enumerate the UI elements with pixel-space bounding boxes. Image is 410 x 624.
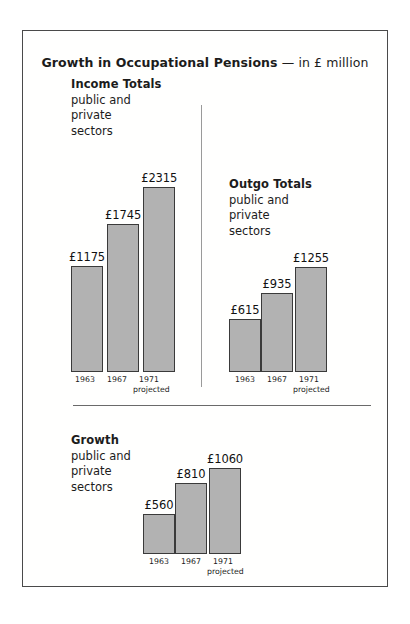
chart-income-totals: £1175 £1745 £2315 (69, 149, 169, 372)
panel-income-totals: Income Totals public and private sectors… (23, 31, 201, 405)
panel-income-totals-subtitle-line-1: public and (71, 93, 162, 109)
chart-growth-x-axis: 1963 1967 1971 projected (143, 557, 239, 577)
panel-outgo-totals-subtitle-line-3: sectors (229, 224, 312, 240)
axis-tick: 1967 (101, 375, 133, 395)
bar-value-label: £810 (177, 467, 206, 481)
bar-rect[interactable] (175, 483, 207, 554)
axis-tick-note: projected (133, 385, 165, 395)
axis-tick: 1971 projected (293, 375, 325, 395)
axis-tick: 1963 (143, 557, 175, 577)
axis-tick: 1963 (229, 375, 261, 395)
panel-growth: Growth public and private sectors £560 £… (23, 405, 389, 588)
chart-income-totals-x-axis: 1963 1967 1971 projected (69, 375, 165, 395)
bar-value-label: £2315 (141, 171, 177, 185)
panel-growth-heading: Growth public and private sectors (71, 433, 131, 495)
bar-value-label: £1745 (105, 208, 141, 222)
bar-value-label: £1255 (293, 251, 329, 265)
panel-growth-subtitle-line-2: private (71, 464, 131, 480)
chart-outgo-totals-x-axis: 1963 1967 1971 projected (229, 375, 325, 395)
chart-outgo-totals-bars: £615 £935 £1255 (229, 249, 329, 372)
bar-rect[interactable] (143, 187, 175, 372)
bar-rect[interactable] (295, 267, 327, 372)
axis-tick-note: projected (293, 385, 325, 395)
axis-tick-label: 1967 (267, 375, 287, 384)
bar-rect[interactable] (261, 293, 293, 372)
bar-value-label: £1175 (69, 250, 105, 264)
bar-rect[interactable] (71, 266, 103, 372)
panel-growth-subtitle-line-3: sectors (71, 480, 131, 496)
chart-growth: £560 £810 £1060 (143, 433, 243, 554)
bar-rect[interactable] (143, 514, 175, 554)
panel-income-totals-heading: Income Totals public and private sectors (71, 77, 162, 139)
bar-column[interactable]: £2315 (141, 171, 177, 372)
panel-growth-subtitle-line-1: public and (71, 449, 131, 465)
axis-tick-note: projected (207, 567, 239, 577)
bar-column[interactable]: £615 (229, 303, 261, 372)
chart-income-totals-bars: £1175 £1745 £2315 (69, 149, 177, 372)
bar-value-label: £615 (231, 303, 260, 317)
panel-income-totals-subtitle-line-2: private (71, 108, 162, 124)
bar-column[interactable]: £1175 (69, 250, 105, 372)
axis-tick: 1971 projected (207, 557, 239, 577)
panel-outgo-totals-title: Outgo Totals (229, 177, 312, 193)
axis-tick-label: 1971 (139, 375, 159, 384)
panel-income-totals-title: Income Totals (71, 77, 162, 93)
axis-tick: 1967 (175, 557, 207, 577)
panel-growth-title: Growth (71, 433, 131, 449)
axis-tick: 1971 projected (133, 375, 165, 395)
axis-tick-label: 1967 (181, 557, 201, 566)
panel-outgo-totals-heading: Outgo Totals public and private sectors (229, 177, 312, 239)
axis-tick-label: 1963 (75, 375, 95, 384)
chart-outgo-totals: £615 £935 £1255 (229, 249, 329, 372)
axis-tick: 1963 (69, 375, 101, 395)
bar-rect[interactable] (229, 319, 261, 372)
bar-value-label: £560 (145, 498, 174, 512)
axis-tick-label: 1971 (213, 557, 233, 566)
panel-outgo-totals-subtitle-line-1: public and (229, 193, 312, 209)
panel-outgo-totals: Outgo Totals public and private sectors … (201, 31, 389, 405)
axis-tick-label: 1971 (299, 375, 319, 384)
axis-tick-label: 1963 (235, 375, 255, 384)
chart-growth-bars: £560 £810 £1060 (143, 433, 243, 554)
bar-column[interactable]: £1060 (207, 452, 243, 554)
axis-tick-label: 1963 (149, 557, 169, 566)
bar-value-label: £935 (263, 277, 292, 291)
bar-column[interactable]: £810 (175, 467, 207, 554)
panel-income-totals-subtitle-line-3: sectors (71, 124, 162, 140)
bar-rect[interactable] (209, 468, 241, 554)
bar-column[interactable]: £935 (261, 277, 293, 372)
bar-column[interactable]: £1745 (105, 208, 141, 372)
axis-tick: 1967 (261, 375, 293, 395)
figure-frame: Growth in Occupational Pensions — in £ m… (22, 30, 388, 587)
bar-value-label: £1060 (207, 452, 243, 466)
axis-tick-label: 1967 (107, 375, 127, 384)
panel-outgo-totals-subtitle-line-2: private (229, 208, 312, 224)
bar-column[interactable]: £560 (143, 498, 175, 554)
bar-rect[interactable] (107, 224, 139, 372)
bar-column[interactable]: £1255 (293, 251, 329, 372)
